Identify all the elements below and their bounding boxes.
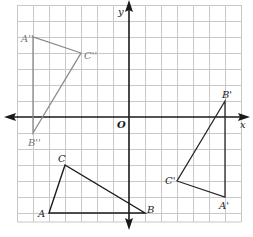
vertex-label-a: A [37, 208, 45, 219]
vertex-label-b: B [146, 204, 154, 215]
vertex-label-c: C [58, 153, 66, 164]
vertex-label-b-prime: B' [221, 89, 232, 100]
axis-arrowheads [4, 0, 250, 230]
coordinate-grid-diagram: y x O A B C A' B' C' A'' B'' C'' [0, 0, 253, 237]
vertex-label-c-prime: C' [165, 175, 175, 186]
y-axis-label: y [117, 6, 124, 17]
origin-label: O [117, 119, 126, 130]
vertex-label-b-double-prime: B'' [27, 137, 41, 148]
x-axis-label: x [240, 119, 246, 130]
vertex-label-a-double-prime: A'' [20, 33, 34, 44]
vertex-label-c-double-prime: C'' [84, 50, 97, 61]
vertex-label-a-prime: A' [218, 200, 229, 211]
